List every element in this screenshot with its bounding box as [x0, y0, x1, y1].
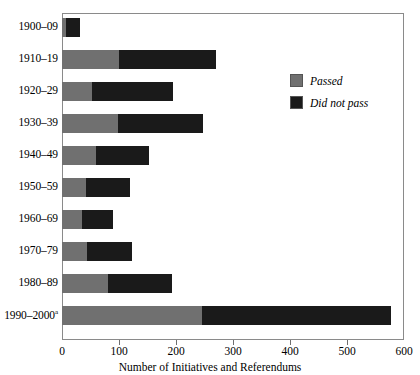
bar-segment-passed: [62, 114, 118, 133]
bar-segment-did-not-pass: [119, 50, 216, 69]
bar-segment-passed: [62, 50, 119, 69]
bar-segment-passed: [62, 242, 87, 261]
y-axis-tick-label: 1910–19: [0, 52, 58, 64]
y-axis-tick-label: 1900–09: [0, 20, 58, 32]
legend-swatch-did-not-pass: [290, 96, 303, 109]
bar-segment-did-not-pass: [86, 178, 130, 197]
y-axis-tick-label: 1940–49: [0, 148, 58, 160]
x-axis-tick-label: 0: [32, 345, 92, 357]
y-axis-tick-label: 1920–29: [0, 84, 58, 96]
bar-segment-did-not-pass: [96, 146, 149, 165]
legend-item-did-not-pass: Did not pass: [290, 94, 368, 111]
bar-segment-passed: [62, 146, 96, 165]
bar-segment-did-not-pass: [82, 210, 113, 229]
x-axis-tick-label: 600: [374, 345, 420, 357]
x-axis-title: Number of Initiatives and Referendums: [0, 361, 420, 373]
y-axis-tick-label: 1980–89: [0, 276, 58, 288]
y-axis-tick-label: 1970–79: [0, 244, 58, 256]
x-axis-tick-label: 300: [203, 345, 263, 357]
y-axis-tick-label: 1960–69: [0, 212, 58, 224]
y-axis-tick-label: 1990–2000a: [0, 308, 58, 321]
x-axis-tick-label: 100: [89, 345, 149, 357]
x-axis-tick-label: 500: [317, 345, 377, 357]
bar-segment-did-not-pass: [108, 274, 172, 293]
bar-segment-passed: [62, 210, 82, 229]
bar-segment-did-not-pass: [202, 306, 392, 325]
x-axis-tick-label: 200: [146, 345, 206, 357]
bar-segment-passed: [62, 82, 92, 101]
legend-label-passed: Passed: [310, 75, 343, 87]
bar-segment-passed: [62, 178, 86, 197]
x-axis-tick-label: 400: [260, 345, 320, 357]
footnote-marker: a: [55, 308, 58, 316]
legend-swatch-passed: [290, 74, 303, 87]
bar-chart: 1900–091910–191920–291930–391940–491950–…: [0, 0, 420, 375]
bar-segment-did-not-pass: [66, 18, 80, 37]
bar-segment-did-not-pass: [118, 114, 203, 133]
y-axis-tick-label: 1950–59: [0, 180, 58, 192]
bar-segment-did-not-pass: [92, 82, 173, 101]
y-axis-tick-label: 1930–39: [0, 116, 58, 128]
bar-segment-passed: [62, 306, 202, 325]
legend-item-passed: Passed: [290, 72, 368, 89]
bar-segment-did-not-pass: [87, 242, 132, 261]
legend: Passed Did not pass: [290, 72, 368, 116]
bar-segment-passed: [62, 274, 108, 293]
legend-label-did-not-pass: Did not pass: [310, 97, 368, 109]
